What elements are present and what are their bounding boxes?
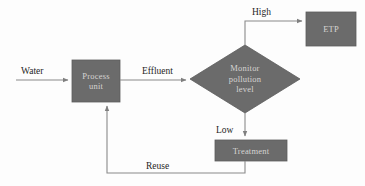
edge-high: [245, 21, 302, 45]
edge-label-low: Low: [216, 125, 233, 136]
edge-label-high: High: [252, 7, 271, 18]
node-monitor-pollution-level: [190, 45, 300, 113]
edge-reuse: [107, 106, 245, 173]
edge-label-effluent: Effluent: [142, 66, 173, 77]
node-process-unit: [72, 60, 120, 102]
flowchart-canvas: [0, 0, 365, 186]
node-treatment: [215, 140, 287, 161]
flowchart-diagram: Process unit Monitor pollution level ETP…: [0, 0, 365, 186]
edge-label-reuse: Reuse: [146, 161, 169, 172]
edge-label-water: Water: [21, 66, 43, 77]
node-etp: [306, 12, 356, 46]
